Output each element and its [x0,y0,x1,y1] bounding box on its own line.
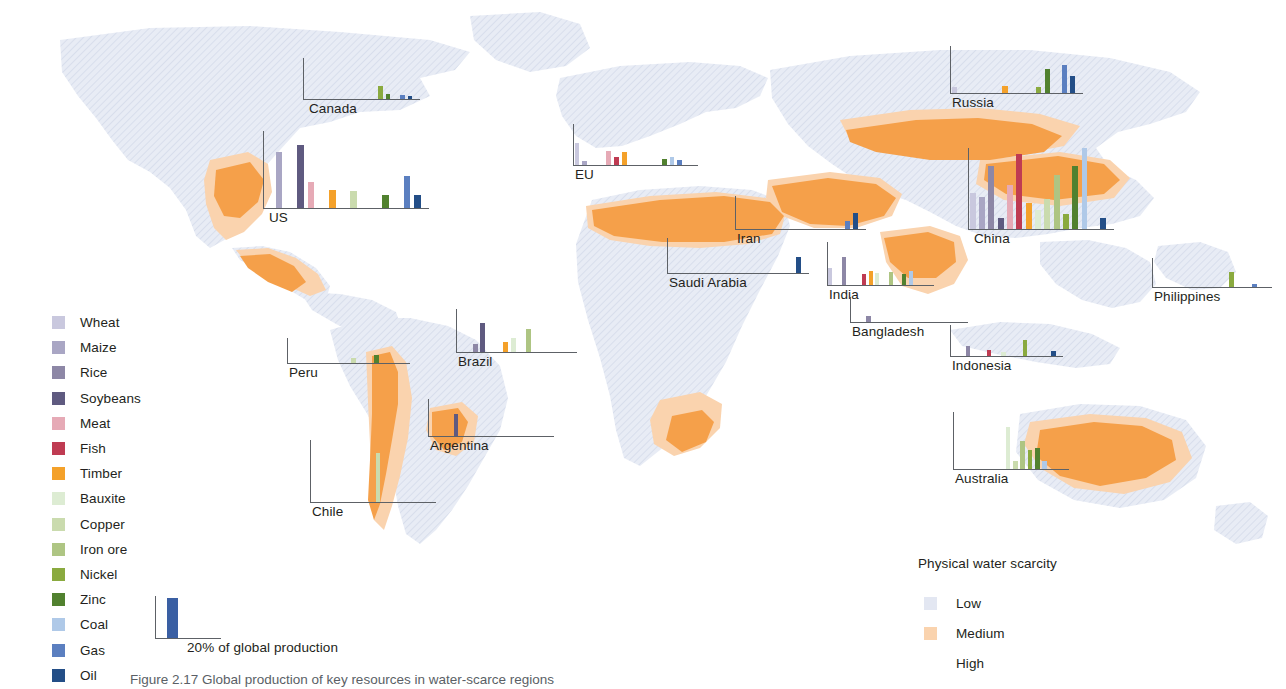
chart-bars [310,440,436,503]
legend-product-label: Coal [80,617,108,632]
chart-bar-slot [605,124,613,166]
chart-axis-x [310,502,436,503]
legend-product-row: Gas [52,637,141,662]
legend-water-row: Low [918,588,1057,618]
chart-country-label: Saudi Arabia [669,275,747,290]
chart-bar-slot [987,148,996,230]
chart-bar-slot [355,58,362,100]
legend-product-label: Fish [80,441,106,456]
chart-bar-slot [334,440,342,503]
chart-bar-slot [1048,412,1055,470]
chart-bar-slot [1000,325,1007,357]
legend-product-swatch [52,366,65,379]
chart-bar-slot [613,124,621,166]
chart-bar-slot [1043,325,1050,357]
chart-bar-slot [721,238,730,274]
legend-product-row: Timber [52,461,141,486]
figure-canvas: CanadaUSEURussiaChinaIranSaudi ArabiaInd… [0,0,1286,689]
chart-bar-slot [525,309,533,353]
chart-bar-slot [676,238,685,274]
chart-axis-x [950,93,1083,94]
chart-bar-slot [556,309,564,353]
chart-bars [827,242,934,286]
chart-bar-slot [971,325,978,357]
chart-bar-slot [954,297,961,323]
chart-bar-slot [318,338,326,364]
chart-bars [950,46,1083,94]
chart-bar-slot [370,58,377,100]
chart-bar-slot [1236,258,1244,288]
chart-bar-slot [1018,46,1026,94]
chart-bar-slot [1004,412,1011,470]
chart-bar-slot [484,399,492,437]
chart-bar-slot [1160,258,1168,288]
chart-bar [526,329,531,353]
chart-bar-slot [365,338,373,364]
chart-plot [573,124,698,166]
chart-bar [1054,175,1060,230]
chart-bar [1062,65,1067,94]
country-chart-argentina: Argentina [428,399,554,457]
chart-bar [1035,210,1041,231]
chart-bar-slot [1021,325,1028,357]
legend-product-label: Nickel [80,567,117,582]
legend-product-label: Gas [80,643,105,658]
chart-bar-slot [636,124,644,166]
chart-bar-slot [377,58,384,100]
chart-axis-x [1152,287,1272,288]
legend-product-label: Maize [80,340,117,355]
chart-bar-slot [895,297,902,323]
chart-bar-slot [979,325,986,357]
chart-axis-x [953,469,1069,470]
chart-bar-slot [1001,46,1009,94]
chart-bar-slot [760,196,768,230]
chart-bar-slot [502,309,510,353]
chart-bar-slot [793,196,801,230]
chart-bar-slot [414,440,422,503]
chart-bar-slot [357,338,365,364]
scale-key-axis-x [155,638,221,639]
chart-axis-y [950,325,951,357]
legend-water-title: Physical water scarcity [918,556,1057,571]
chart-bar-slot [852,196,860,230]
chart-bar-slot [872,297,879,323]
chart-bar-slot [1060,46,1068,94]
chart-bar-slot [1061,148,1070,230]
legend-water-swatch [924,657,937,670]
chart-axis-y [735,196,736,230]
legend-product-label: Copper [80,517,125,532]
chart-plot [950,325,1063,357]
legend-water-scarcity: Physical water scarcity LowMediumHigh [918,556,1057,678]
chart-bar-slot [303,338,311,364]
chart-bar-slot [295,338,303,364]
chart-bar [828,268,832,286]
chart-bar-slot [712,238,721,274]
chart-bar-slot [861,242,868,286]
chart-bar-slot [338,131,349,209]
chart-bars [968,148,1114,230]
chart-bar-slot [914,242,921,286]
chart-plot [850,297,968,323]
chart-bar-slot [284,131,295,209]
chart-bar-slot [932,297,939,323]
chart-bar-slot [422,440,430,503]
chart-bar [1023,340,1027,357]
chart-bar-slot [1015,148,1024,230]
chart-bar-slot [563,309,571,353]
legend-product-row: Meat [52,411,141,436]
chart-bar-slot [1051,46,1059,94]
legend-product-row: Soybeans [52,386,141,411]
chart-bar-slot [349,338,357,364]
chart-bar-slot [1041,412,1048,470]
chart-axis-y [850,297,851,323]
chart-bars [456,309,577,353]
chart-bar-slot [1052,148,1061,230]
chart-bar-slot [476,399,484,437]
chart-bar [276,152,283,209]
legend-product-row: Bauxite [52,486,141,511]
legend-product-row: Oil [52,663,141,688]
chart-bar-slot [917,297,924,323]
chart-bar-slot [396,338,404,364]
chart-country-label: Philippines [1154,289,1220,304]
chart-axis-x [850,322,968,323]
